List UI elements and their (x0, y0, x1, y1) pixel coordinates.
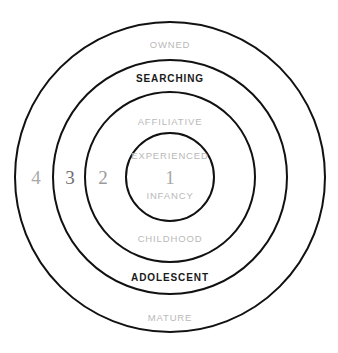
ring-label-affiliative: AFFILIATIVE (138, 117, 203, 127)
ring-number-4: 4 (31, 168, 41, 187)
ring-label-searching: SEARCHING (136, 74, 204, 84)
ring-number-2: 2 (98, 168, 108, 187)
ring-number-3: 3 (65, 168, 75, 187)
ring-label-infancy: INFANCY (146, 191, 193, 201)
ring-label-experienced: EXPERIENCED (131, 151, 209, 161)
ring-label-childhood: CHILDHOOD (138, 234, 203, 244)
ring-label-owned: OWNED (150, 40, 191, 50)
ring-number-1: 1 (165, 168, 175, 187)
concentric-circles-diagram: OWNEDSEARCHINGAFFILIATIVEEXPERIENCEDINFA… (0, 0, 338, 353)
ring-label-adolescent: ADOLESCENT (131, 273, 209, 283)
ring-label-mature: MATURE (148, 313, 193, 323)
